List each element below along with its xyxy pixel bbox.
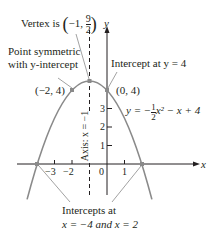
point-left	[70, 88, 74, 92]
x-axis-label: x	[201, 158, 206, 170]
x-tick-1: 1	[122, 166, 127, 178]
point-intercept-right	[140, 162, 144, 166]
x-tick-0: 0	[99, 166, 104, 178]
intercept-y-label: Intercept at y = 4	[111, 57, 186, 69]
point-vertex	[88, 79, 92, 83]
x-tick-neg3: −3	[45, 166, 56, 178]
y-ticks	[107, 109, 112, 146]
intercepts-x-label-line2: x = −4 and x = 2	[62, 218, 138, 230]
y-tick-2: 2	[100, 121, 105, 133]
symmetric-label-line2: with y-intercept	[8, 58, 78, 70]
symmetric-label-line1: Point symmetric	[8, 45, 80, 57]
point-intercept-left	[35, 162, 39, 166]
point-left-label: (−2, 4)	[35, 84, 65, 96]
y-axis-label: y	[104, 17, 109, 29]
x-axis-arrow-icon	[193, 162, 200, 167]
equation-label: y = −12x² − x + 4	[126, 103, 200, 122]
y-tick-3: 3	[100, 103, 105, 115]
intercepts-x-label-line1: Intercepts at	[62, 204, 116, 216]
vertex-label: Vertex is (−1, 9 2 )	[21, 14, 97, 35]
point-right-label: (0, 4)	[116, 84, 140, 96]
axis-of-symmetry-label: Axis: x = −1	[79, 111, 91, 161]
y-tick-1: 1	[100, 140, 105, 152]
point-right	[105, 88, 109, 92]
x-tick-neg2: −2	[63, 166, 74, 178]
